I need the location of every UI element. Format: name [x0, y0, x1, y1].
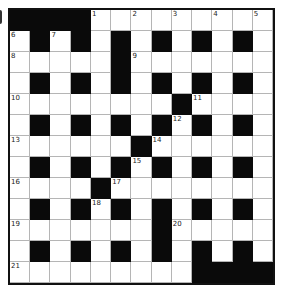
- grid-cell[interactable]: [192, 220, 212, 241]
- grid-cell[interactable]: [253, 73, 273, 94]
- grid-cell[interactable]: [172, 157, 192, 178]
- grid-cell[interactable]: 11: [192, 94, 212, 115]
- grid-cell[interactable]: [212, 220, 232, 241]
- grid-cell[interactable]: [111, 262, 131, 283]
- grid-cell[interactable]: [131, 199, 151, 220]
- grid-cell[interactable]: [50, 241, 70, 262]
- grid-cell[interactable]: 19: [10, 220, 30, 241]
- grid-cell[interactable]: [172, 178, 192, 199]
- grid-cell[interactable]: [91, 220, 111, 241]
- grid-cell[interactable]: [212, 115, 232, 136]
- grid-cell[interactable]: 12: [172, 115, 192, 136]
- grid-cell[interactable]: [71, 262, 91, 283]
- grid-cell[interactable]: [253, 31, 273, 52]
- grid-cell[interactable]: 18: [91, 199, 111, 220]
- grid-cell[interactable]: [192, 136, 212, 157]
- grid-cell[interactable]: [212, 31, 232, 52]
- grid-cell[interactable]: 13: [10, 136, 30, 157]
- grid-cell[interactable]: [253, 178, 273, 199]
- grid-cell[interactable]: [131, 220, 151, 241]
- grid-cell[interactable]: [50, 52, 70, 73]
- grid-cell[interactable]: [253, 220, 273, 241]
- grid-cell[interactable]: [30, 136, 50, 157]
- grid-cell[interactable]: [212, 136, 232, 157]
- grid-cell[interactable]: [172, 31, 192, 52]
- grid-cell[interactable]: 1: [91, 10, 111, 31]
- grid-cell[interactable]: 4: [212, 10, 232, 31]
- grid-cell[interactable]: [131, 262, 151, 283]
- grid-cell[interactable]: [50, 262, 70, 283]
- grid-cell[interactable]: [71, 136, 91, 157]
- grid-cell[interactable]: [111, 136, 131, 157]
- grid-cell[interactable]: [10, 241, 30, 262]
- grid-cell[interactable]: [50, 157, 70, 178]
- grid-cell[interactable]: [30, 178, 50, 199]
- grid-cell[interactable]: 3: [172, 10, 192, 31]
- grid-cell[interactable]: [91, 157, 111, 178]
- grid-cell[interactable]: [172, 262, 192, 283]
- grid-cell[interactable]: [212, 73, 232, 94]
- grid-cell[interactable]: [233, 178, 253, 199]
- grid-cell[interactable]: [91, 31, 111, 52]
- grid-cell[interactable]: [111, 220, 131, 241]
- grid-cell[interactable]: [152, 94, 172, 115]
- grid-cell[interactable]: [212, 178, 232, 199]
- grid-cell[interactable]: [10, 73, 30, 94]
- grid-cell[interactable]: [233, 94, 253, 115]
- grid-cell[interactable]: [253, 199, 273, 220]
- grid-cell[interactable]: 21: [10, 262, 30, 283]
- grid-cell[interactable]: [212, 199, 232, 220]
- grid-cell[interactable]: [192, 52, 212, 73]
- grid-cell[interactable]: [71, 52, 91, 73]
- grid-cell[interactable]: [172, 52, 192, 73]
- grid-cell[interactable]: [50, 178, 70, 199]
- grid-cell[interactable]: 16: [10, 178, 30, 199]
- grid-cell[interactable]: [253, 157, 273, 178]
- grid-cell[interactable]: 6: [10, 31, 30, 52]
- grid-cell[interactable]: [10, 199, 30, 220]
- grid-cell[interactable]: [91, 52, 111, 73]
- grid-cell[interactable]: [152, 178, 172, 199]
- grid-cell[interactable]: 5: [253, 10, 273, 31]
- grid-cell[interactable]: [91, 94, 111, 115]
- grid-cell[interactable]: 15: [131, 157, 151, 178]
- grid-cell[interactable]: [131, 73, 151, 94]
- grid-cell[interactable]: [253, 52, 273, 73]
- grid-cell[interactable]: [50, 199, 70, 220]
- grid-cell[interactable]: [212, 52, 232, 73]
- grid-cell[interactable]: [131, 178, 151, 199]
- grid-cell[interactable]: [172, 73, 192, 94]
- grid-cell[interactable]: [233, 52, 253, 73]
- grid-cell[interactable]: [50, 136, 70, 157]
- grid-cell[interactable]: [192, 178, 212, 199]
- grid-cell[interactable]: [152, 262, 172, 283]
- grid-cell[interactable]: [50, 220, 70, 241]
- grid-cell[interactable]: [253, 115, 273, 136]
- grid-cell[interactable]: [30, 262, 50, 283]
- grid-cell[interactable]: [172, 136, 192, 157]
- grid-cell[interactable]: [111, 94, 131, 115]
- grid-cell[interactable]: [253, 94, 273, 115]
- grid-cell[interactable]: 20: [172, 220, 192, 241]
- grid-cell[interactable]: [91, 115, 111, 136]
- grid-cell[interactable]: [152, 10, 172, 31]
- grid-cell[interactable]: [152, 52, 172, 73]
- grid-cell[interactable]: 7: [50, 31, 70, 52]
- grid-cell[interactable]: 2: [131, 10, 151, 31]
- grid-cell[interactable]: [10, 115, 30, 136]
- grid-cell[interactable]: [91, 136, 111, 157]
- grid-cell[interactable]: [233, 220, 253, 241]
- grid-cell[interactable]: [10, 157, 30, 178]
- grid-cell[interactable]: [253, 136, 273, 157]
- grid-cell[interactable]: [50, 73, 70, 94]
- grid-cell[interactable]: 8: [10, 52, 30, 73]
- grid-cell[interactable]: [172, 241, 192, 262]
- grid-cell[interactable]: [91, 262, 111, 283]
- grid-cell[interactable]: [30, 52, 50, 73]
- grid-cell[interactable]: 10: [10, 94, 30, 115]
- grid-cell[interactable]: [212, 241, 232, 262]
- grid-cell[interactable]: [91, 73, 111, 94]
- grid-cell[interactable]: [172, 199, 192, 220]
- grid-cell[interactable]: [111, 10, 131, 31]
- grid-cell[interactable]: [30, 94, 50, 115]
